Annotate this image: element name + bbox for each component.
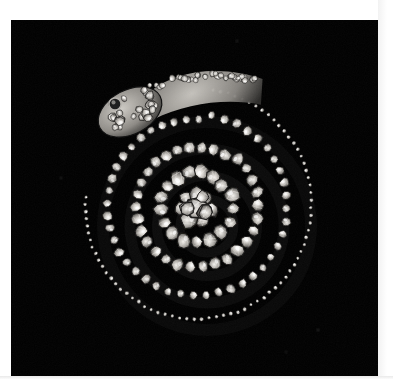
matte-top-edge: [0, 0, 393, 20]
matte-left-edge: [0, 0, 11, 381]
screenshot-root: Antique diamond serpent jewel coiled in …: [0, 0, 393, 381]
film-grain: [11, 20, 378, 376]
photograph: [11, 20, 378, 376]
matte-bottom-edge: [0, 376, 393, 381]
serpent-jewel-illustration: [11, 20, 378, 376]
matte-right-edge: [378, 0, 393, 381]
